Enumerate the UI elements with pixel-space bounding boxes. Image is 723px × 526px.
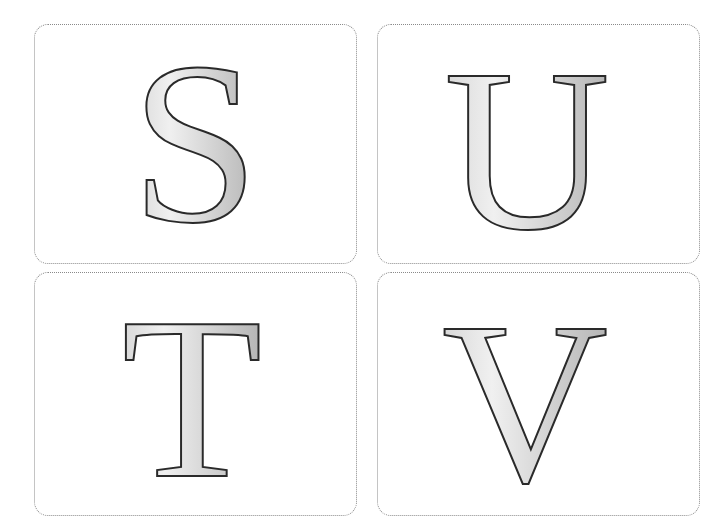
letter-u: U — [444, 25, 610, 263]
letter-card-v: V — [377, 272, 700, 516]
letter-t-graphic: T — [35, 273, 356, 515]
letter-u-graphic: U — [378, 25, 699, 263]
letter-card-u: U — [377, 24, 700, 264]
letter-t: T — [122, 273, 263, 515]
letter-v: V — [442, 276, 608, 515]
letter-s: S — [131, 25, 259, 263]
letter-card-s: S — [34, 24, 357, 264]
letter-v-graphic: V — [378, 273, 699, 515]
letter-card-t: T — [34, 272, 357, 516]
letter-s-graphic: S — [35, 25, 356, 263]
